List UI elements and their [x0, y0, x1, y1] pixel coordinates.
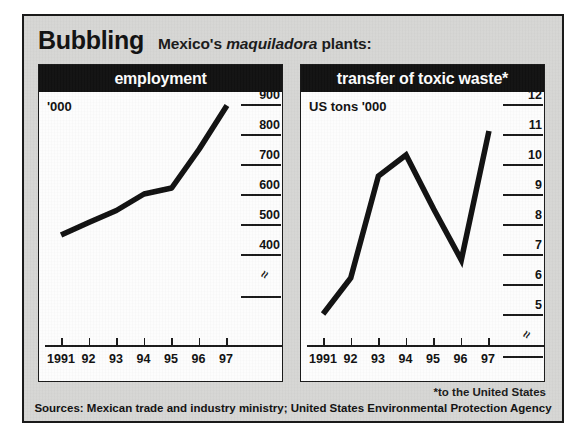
line-chart-toxic-waste	[307, 122, 498, 337]
footnote: *to the United States	[434, 386, 546, 398]
x-tick-label: 93	[371, 352, 385, 366]
plot-area-toxic-waste	[307, 122, 498, 337]
y-axis-employment: 900800700600500400≈	[236, 92, 282, 351]
x-tick-label: 94	[137, 352, 151, 366]
subtitle: Mexico's maquiladora plants:	[158, 35, 372, 53]
panel-body-employment: '000 900800700600500400≈ 199192939495969…	[39, 92, 282, 381]
y-tick-label: 700	[238, 148, 280, 162]
y-axis-unit-right: US tons '000	[309, 99, 387, 114]
x-tick-label: 95	[164, 352, 178, 366]
x-axis-labels-employment: 1991929394959697	[39, 350, 282, 374]
y-tick-label: 6	[500, 268, 542, 282]
subtitle-pre: Mexico's	[158, 35, 226, 52]
x-tick-mark	[199, 338, 201, 345]
y-tick-rule	[241, 296, 281, 298]
y-axis-unit-left: '000	[47, 99, 72, 114]
y-tick-label: 900	[238, 88, 280, 102]
x-tick-mark	[61, 338, 63, 345]
sources-line: Sources: Mexican trade and industry mini…	[24, 402, 562, 414]
x-tick-mark	[226, 338, 228, 345]
x-tick-mark	[171, 338, 173, 345]
x-axis-line-left	[45, 345, 282, 347]
y-tick-rule	[241, 164, 281, 166]
y-axis-toxic-waste: 12111098765≈	[498, 92, 544, 351]
x-tick-label: 1991	[309, 352, 337, 366]
x-tick-mark	[323, 338, 325, 345]
x-tick-label: 95	[426, 352, 440, 366]
x-tick-label: 97	[481, 352, 495, 366]
y-tick-label: 8	[500, 208, 542, 222]
subtitle-italic: maquiladora	[226, 35, 317, 52]
panel-body-toxic-waste: US tons '000 12111098765≈ 19919293949596…	[301, 92, 544, 381]
x-tick-mark	[406, 338, 408, 345]
x-tick-mark	[433, 338, 435, 345]
y-tick-rule	[503, 224, 543, 226]
x-tick-mark	[488, 338, 490, 345]
x-axis-labels-toxic-waste: 1991929394959697	[301, 350, 544, 374]
x-tick-label: 96	[192, 352, 206, 366]
y-tick-rule	[241, 254, 281, 256]
y-tick-rule	[503, 104, 543, 106]
y-tick-label: 800	[238, 118, 280, 132]
x-tick-label: 92	[82, 352, 96, 366]
y-tick-rule	[241, 194, 281, 196]
y-tick-label: 10	[500, 148, 542, 162]
y-tick-rule	[503, 284, 543, 286]
x-tick-mark	[144, 338, 146, 345]
plot-area-employment	[45, 122, 236, 337]
x-axis-line-right	[307, 345, 544, 347]
x-tick-label: 97	[219, 352, 233, 366]
page-title: Bubbling	[38, 26, 144, 55]
data-line-toxic-waste	[323, 131, 489, 314]
y-tick-rule	[503, 254, 543, 256]
y-tick-label: 12	[500, 88, 542, 102]
y-tick-label: 600	[238, 178, 280, 192]
x-tick-mark	[116, 338, 118, 345]
y-tick-rule	[503, 194, 543, 196]
x-tick-mark	[378, 338, 380, 345]
x-tick-mark	[461, 338, 463, 345]
infographic-figure: Bubbling Mexico's maquiladora plants: em…	[22, 14, 564, 423]
y-tick-label: 9	[500, 178, 542, 192]
axis-break-icon: ≈	[518, 328, 535, 341]
y-tick-rule	[503, 164, 543, 166]
data-line-employment	[61, 106, 227, 236]
x-tick-label: 93	[109, 352, 123, 366]
y-tick-rule	[503, 314, 543, 316]
chart-panel-employment: employment '000 900800700600500400≈ 1991…	[38, 64, 283, 382]
subtitle-post: plants:	[317, 35, 371, 52]
y-tick-label: 400	[238, 238, 280, 252]
x-tick-label: 96	[454, 352, 468, 366]
y-tick-label: 7	[500, 238, 542, 252]
y-tick-label: 11	[500, 118, 542, 132]
y-tick-rule	[241, 224, 281, 226]
x-tick-label: 94	[399, 352, 413, 366]
y-tick-rule	[503, 134, 543, 136]
x-tick-mark	[351, 338, 353, 345]
title-row: Bubbling Mexico's maquiladora plants:	[38, 26, 548, 58]
chart-panel-toxic-waste: transfer of toxic waste* US tons '000 12…	[300, 64, 545, 382]
line-chart-employment	[45, 122, 236, 337]
x-tick-label: 92	[344, 352, 358, 366]
x-tick-mark	[89, 338, 91, 345]
y-tick-rule	[241, 134, 281, 136]
axis-break-icon: ≈	[256, 268, 273, 281]
y-tick-rule	[241, 104, 281, 106]
y-tick-label: 500	[238, 208, 280, 222]
y-tick-label: 5	[500, 298, 542, 312]
x-tick-label: 1991	[47, 352, 75, 366]
